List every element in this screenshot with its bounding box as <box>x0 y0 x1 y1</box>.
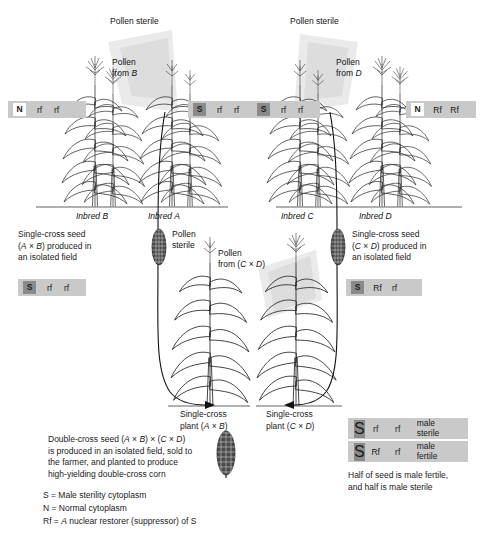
allele-1: Rf <box>429 105 446 115</box>
ear-single-cross-ab <box>150 228 168 266</box>
ear-single-cross-cd <box>329 228 347 266</box>
outcome-row-sterile: S rf rf male sterile <box>348 418 468 439</box>
allele-2: Rf <box>446 105 463 115</box>
allele-2: rf <box>228 105 245 115</box>
allele-2: rf <box>48 105 65 115</box>
allele-1: rf <box>365 424 387 434</box>
cytoplasm-symbol: S <box>23 281 36 294</box>
flow-ab-to-plant <box>158 262 205 405</box>
allele-1: Rf <box>365 447 387 457</box>
pollen-from-d-label: Pollen from D <box>336 57 362 78</box>
cytoplasm-symbol: S <box>354 420 365 438</box>
genotype-box-inbred-c: S rf rf <box>252 101 320 118</box>
cytoplasm-symbol: S <box>351 281 364 294</box>
legend-line-n: N = Normal cytoplasm <box>43 502 127 515</box>
allele-1: rf <box>31 105 48 115</box>
label-inbred-d: Inbred D <box>359 211 392 222</box>
cytoplasm-symbol: N <box>411 103 424 116</box>
phenotype-label: male sterile <box>417 419 440 438</box>
allele-2: rf <box>386 283 403 293</box>
pollen-from-b-label: Pollen from B <box>112 57 137 78</box>
pollen-sterile-label-middle: Pollen sterile <box>172 229 196 250</box>
genotype-box-single-cross-cd: S Rf rf <box>346 279 422 296</box>
allele-1: rf <box>211 105 228 115</box>
label-inbred-c: Inbred C <box>281 211 314 222</box>
plant-inbred-d-2 <box>369 66 431 206</box>
label-inbred-b: Inbred B <box>76 211 108 222</box>
pollen-sterile-label-left: Pollen sterile <box>110 16 159 27</box>
allele-2: rf <box>58 283 75 293</box>
label-single-cross-plant-ab: Single-cross plant (A × B) <box>180 409 260 432</box>
legend-line-s: S = Male sterility cytoplasm <box>43 489 146 502</box>
pollen-from-cd-label: Pollen from (C × D) <box>218 248 265 269</box>
cytoplasm-symbol: S <box>193 103 206 116</box>
arrow-cd <box>284 401 294 409</box>
caption-single-cross-seed-ab: Single-cross seed (A × B) produced in an… <box>18 229 143 264</box>
label-single-cross-plant-cd: Single-cross plant (C × D) <box>266 409 346 432</box>
pollen-sterile-label-right: Pollen sterile <box>290 16 339 27</box>
allele-2: rf <box>387 424 409 434</box>
cytoplasm-symbol: S <box>257 103 270 116</box>
genotype-box-inbred-b: N rf rf <box>8 101 86 118</box>
allele-2: rf <box>387 447 409 457</box>
flow-cd-top <box>330 112 337 230</box>
genotype-box-single-cross-ab: S rf rf <box>18 279 86 296</box>
outcome-row-fertile: S Rf rf male fertile <box>348 441 468 462</box>
cytoplasm-symbol: S <box>354 443 365 461</box>
phenotype-label: male fertile <box>417 442 438 461</box>
allele-1: Rf <box>369 283 386 293</box>
genotype-box-inbred-d: N Rf Rf <box>406 101 476 118</box>
allele-1: rf <box>41 283 58 293</box>
legend-line-rf: Rf = A nuclear restorer (suppressor) of … <box>43 515 196 528</box>
allele-2: rf <box>292 105 309 115</box>
genotype-box-inbred-a: S rf rf <box>188 101 256 118</box>
caption-single-cross-seed-cd: Single-cross seed (C × D) produced in an… <box>352 229 480 264</box>
cytoplasm-symbol: N <box>13 103 26 116</box>
allele-1: rf <box>275 105 292 115</box>
label-inbred-a: Inbred A <box>148 211 180 222</box>
double-cross-note: Double-cross seed (A × B) × (C × D) is p… <box>48 434 238 480</box>
pollen-cloud-cd <box>258 250 322 318</box>
figure-canvas: Pollen sterile Pollen from B N rf rf S r… <box>0 0 481 542</box>
outcome-key-note: Half of seed is male fertile, and half i… <box>348 470 481 493</box>
